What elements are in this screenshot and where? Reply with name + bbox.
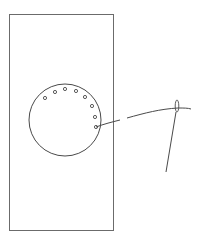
stitch-hole <box>93 115 96 118</box>
stitch-hole <box>53 90 56 93</box>
needle-icon <box>166 100 179 172</box>
thread-segment <box>127 108 191 118</box>
stitch-hole <box>63 87 66 90</box>
thread-segment <box>96 120 120 127</box>
stitch-hole <box>43 96 46 99</box>
diagram-canvas <box>0 0 207 235</box>
thread <box>96 108 191 127</box>
fabric-panel <box>10 15 114 231</box>
stitch-hole <box>74 89 77 92</box>
needle-eye <box>175 100 179 112</box>
sewing-diagram <box>0 0 207 235</box>
needle-shaft <box>166 112 176 172</box>
stitch-hole <box>83 95 86 98</box>
stitch-hole <box>90 104 93 107</box>
circle-outline <box>29 84 101 156</box>
